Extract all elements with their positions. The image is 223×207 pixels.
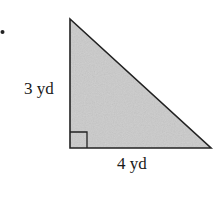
vertical-side-label: 3 yd — [24, 80, 54, 97]
triangle-figure: 3 yd 4 yd — [0, 0, 223, 207]
bullet-dot — [1, 30, 5, 34]
horizontal-side-label: 4 yd — [117, 155, 147, 172]
triangle-diagram — [0, 0, 223, 207]
